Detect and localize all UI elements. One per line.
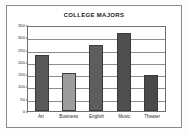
y-axis-tick-label: 150	[18, 73, 25, 77]
bar-business	[62, 73, 76, 111]
chart-title: COLLEGE MAJORS	[0, 12, 188, 18]
y-axis-tick-label: 200	[18, 61, 25, 65]
y-axis-tick-label: 50	[20, 98, 25, 102]
bar-music	[117, 33, 131, 111]
bars-group	[28, 27, 165, 111]
bar-theater	[144, 75, 158, 111]
x-axis-tick-label: Theater	[139, 113, 166, 120]
y-axis-tick-label: 350	[18, 24, 25, 28]
y-axis-tick-label: 300	[18, 36, 25, 40]
x-axis: ArtBusinessEnglishMusicTheater	[27, 113, 166, 125]
college-majors-bar-chart: COLLEGE MAJORS 350300250200150100500 Art…	[0, 0, 188, 135]
y-axis-tick-label: 0	[23, 110, 25, 114]
x-axis-tick-label: English	[83, 113, 110, 120]
y-axis: 350300250200150100500	[8, 26, 26, 112]
x-axis-tick-label: Art	[27, 113, 54, 120]
bar-english	[89, 45, 103, 111]
bar-art	[35, 55, 49, 111]
x-axis-tick-label: Music	[111, 113, 138, 120]
y-axis-tick-label: 250	[18, 48, 25, 52]
plot-area	[27, 26, 166, 112]
x-axis-tick-label: Business	[55, 113, 82, 120]
y-axis-tick-label: 100	[18, 85, 25, 89]
